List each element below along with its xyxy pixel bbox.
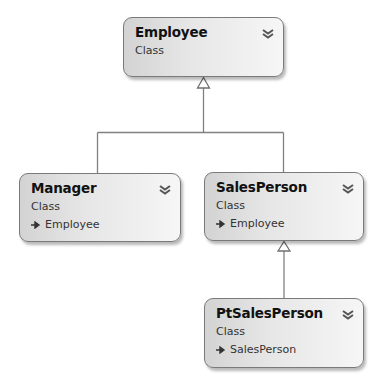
base-class-reference: Employee	[216, 217, 284, 230]
class-kind-label: Class	[216, 199, 245, 212]
double-chevron-down-icon[interactable]	[342, 305, 354, 315]
class-name: PtSalesPerson	[216, 305, 323, 321]
class-name: Employee	[135, 24, 207, 40]
class-name: SalesPerson	[216, 179, 307, 195]
base-class-name: Employee	[45, 218, 99, 231]
inherits-arrow-icon	[31, 221, 41, 229]
inherits-arrow-icon	[216, 220, 226, 228]
inheritance-arrowhead-icon	[278, 242, 290, 252]
class-kind-label: Class	[31, 200, 60, 213]
inheritance-arrowhead-icon	[198, 78, 210, 89]
double-chevron-down-icon[interactable]	[342, 179, 354, 189]
base-class-name: Employee	[230, 217, 284, 230]
class-diagram-canvas: Employee Class Manager Class Employee Sa…	[0, 0, 386, 387]
class-box-employee[interactable]: Employee Class	[123, 17, 284, 77]
class-box-salesperson[interactable]: SalesPerson Class Employee	[204, 172, 364, 241]
double-chevron-down-icon[interactable]	[262, 24, 274, 34]
connector-employee-children[interactable]	[98, 88, 284, 173]
class-box-ptsalesperson[interactable]: PtSalesPerson Class SalesPerson	[204, 298, 364, 368]
inherits-arrow-icon	[216, 346, 226, 354]
double-chevron-down-icon[interactable]	[159, 180, 171, 190]
base-class-reference: Employee	[31, 218, 99, 231]
class-box-manager[interactable]: Manager Class Employee	[19, 173, 181, 242]
class-kind-label: Class	[135, 44, 164, 57]
class-kind-label: Class	[216, 325, 245, 338]
base-class-reference: SalesPerson	[216, 343, 296, 356]
base-class-name: SalesPerson	[230, 343, 296, 356]
class-name: Manager	[31, 180, 96, 196]
